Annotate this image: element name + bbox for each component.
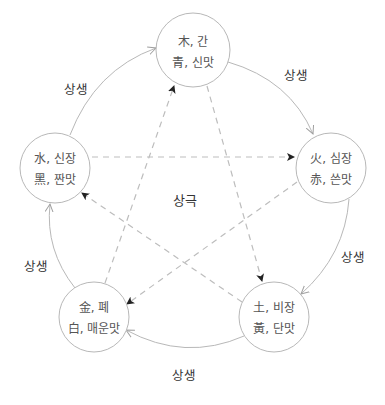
five-elements-diagram: 木, 간 青, 신맛 火, 심장 赤, 쓴맛 土, 비장 黃, 단맛 金, 폐 … [0, 0, 385, 405]
node-wood-line1: 木, 간 [178, 35, 209, 49]
node-metal: 金, 폐 白, 매운맛 [59, 282, 129, 352]
arc-metal-to-water [49, 204, 75, 288]
node-earth-line1: 土, 비장 [253, 301, 295, 315]
node-fire-line1: 火, 심장 [310, 152, 352, 166]
node-water-line1: 水, 신장 [34, 152, 76, 166]
node-wood-line2: 青, 신맛 [172, 56, 214, 70]
generating-label-wood-fire: 상생 [284, 68, 308, 83]
node-fire: 火, 심장 赤, 쓴맛 [296, 133, 366, 203]
generating-label-water-wood: 상생 [64, 82, 88, 97]
node-earth: 土, 비장 黃, 단맛 [239, 282, 309, 352]
node-metal-line1: 金, 폐 [79, 300, 110, 315]
dash-wood-to-earth [207, 86, 262, 281]
generating-label-fire-earth: 상생 [341, 250, 365, 265]
controlling-cycle-label: 상극 [173, 193, 197, 208]
arc-fire-to-earth [301, 199, 349, 294]
node-metal-line2: 白, 매운맛 [68, 321, 121, 336]
node-wood: 木, 간 青, 신맛 [156, 13, 230, 87]
generating-label-metal-water: 상생 [24, 259, 48, 274]
node-water-line2: 黑, 짠맛 [34, 173, 76, 187]
dash-metal-to-wood [105, 86, 174, 283]
generating-label-earth-metal: 상생 [172, 368, 196, 383]
node-water: 水, 신장 黑, 짠맛 [20, 133, 90, 203]
arc-earth-to-metal [126, 330, 244, 348]
node-earth-line2: 黃, 단맛 [253, 322, 295, 336]
node-fire-line2: 赤, 쓴맛 [310, 173, 352, 187]
